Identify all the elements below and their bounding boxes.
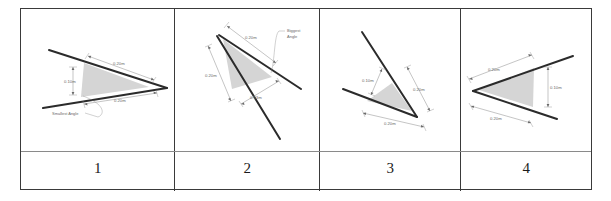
callout-label-biggest-angle-line1-2: Biggest	[287, 28, 301, 33]
dimension-label-right-3: 0.20m	[413, 87, 425, 92]
ray-lower-2	[217, 36, 280, 139]
diagram-row: 0.10m 0.20m	[21, 9, 591, 151]
label-cell-1: 1	[21, 152, 175, 191]
shape-number-2: 2	[175, 152, 319, 191]
dimension-height-1: 0.10m	[64, 67, 77, 95]
diagram-3: 0.10m 0.20m	[320, 9, 462, 151]
callout-label-smallest-angle-1: Smallest Angle	[52, 111, 79, 116]
shape-number-4: 4	[461, 152, 591, 191]
dimension-label-lower-4: 0.20m	[490, 116, 502, 121]
diagram-cell-2: 0.20m 0.20m	[175, 9, 320, 151]
figure-page: 0.10m 0.20m	[0, 0, 611, 201]
dimension-label-height-4: 0.10m	[550, 85, 562, 90]
callout-label-biggest-angle-line2-2: Angle	[287, 34, 298, 39]
dimension-label-left-2: 0.20m	[205, 73, 217, 78]
dimension-label-short-3: 0.10m	[362, 78, 374, 83]
diagram-cell-1: 0.10m 0.20m	[21, 9, 175, 151]
dimension-label-upper-4: 0.20m	[488, 67, 500, 72]
label-cell-2: 2	[175, 152, 320, 191]
dimension-label-short-2: 0.13m	[250, 95, 262, 100]
diagram-4: 0.20m 0.20m	[461, 9, 591, 151]
dimension-label-bottom-3: 0.20m	[384, 121, 396, 126]
dimension-label-height-1: 0.10m	[64, 79, 76, 84]
diagram-2: 0.20m 0.20m	[175, 9, 320, 151]
dimension-label-upper-1: 0.20m	[113, 61, 125, 66]
callout-biggest-angle-2: Biggest Angle	[271, 28, 301, 73]
label-cell-4: 4	[461, 152, 591, 191]
shape-number-3: 3	[320, 152, 461, 191]
label-row: 1 2 3 4	[21, 151, 591, 191]
shape-number-1: 1	[21, 152, 174, 191]
dimension-label-lower-1: 0.20m	[114, 98, 126, 103]
diagram-cell-4: 0.20m 0.20m	[461, 9, 591, 151]
dimension-height-4: 0.10m	[544, 67, 562, 107]
diagram-1: 0.10m 0.20m	[21, 9, 175, 151]
label-cell-3: 3	[320, 152, 462, 191]
diagram-cell-3: 0.10m 0.20m	[320, 9, 462, 151]
dimension-bottom-3: 0.20m	[362, 110, 426, 131]
comparison-table: 0.10m 0.20m	[20, 8, 592, 190]
dimension-lower-4: 0.20m	[469, 103, 533, 127]
dimension-label-top-2: 0.20m	[245, 35, 257, 40]
